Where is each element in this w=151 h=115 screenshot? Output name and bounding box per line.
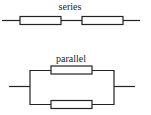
- parallel-circuit: [9, 66, 135, 109]
- series-resistor-1: [20, 17, 61, 25]
- series-resistor-2: [82, 17, 123, 25]
- circuit-diagram: [0, 0, 151, 115]
- parallel-resistor-bottom: [51, 101, 92, 109]
- parallel-resistor-top: [51, 66, 92, 74]
- series-circuit: [2, 17, 140, 25]
- parallel-left-junction: [30, 71, 51, 105]
- parallel-right-junction: [92, 71, 114, 105]
